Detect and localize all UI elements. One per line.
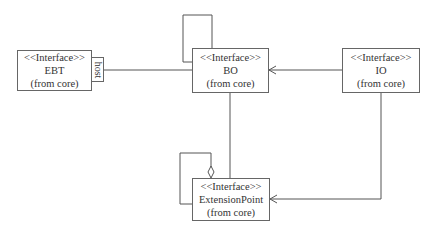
ep-name: ExtensionPoint xyxy=(199,193,263,206)
class-bo[interactable]: <<Interface>> BO (from core) xyxy=(192,48,269,93)
ep-package: (from core) xyxy=(207,206,255,219)
io-ep-association xyxy=(270,93,381,199)
io-stereotype: <<Interface>> xyxy=(351,51,412,64)
io-name: IO xyxy=(375,64,386,77)
class-extensionpoint[interactable]: <<Interface>> ExtensionPoint (from core) xyxy=(192,178,270,221)
ebt-package: (from core) xyxy=(30,77,78,90)
aggregation-diamond-icon xyxy=(208,166,214,178)
ep-stereotype: <<Interface>> xyxy=(201,180,262,193)
bo-name: BO xyxy=(223,64,238,77)
io-package: (from core) xyxy=(357,77,405,90)
ebt-name: EBT xyxy=(45,64,65,77)
host-qualifier-label: host xyxy=(92,61,103,78)
bo-package: (from core) xyxy=(206,77,254,90)
class-io[interactable]: <<Interface>> IO (from core) xyxy=(342,48,420,93)
bo-stereotype: <<Interface>> xyxy=(200,51,261,64)
host-qualifier: host xyxy=(91,57,104,82)
ebt-stereotype: <<Interface>> xyxy=(24,51,85,64)
class-ebt[interactable]: <<Interface>> EBT (from core) xyxy=(17,50,92,91)
